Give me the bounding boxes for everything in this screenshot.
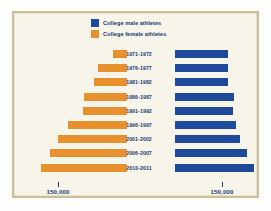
- category-label: 1971-1972: [115, 49, 163, 59]
- bar-male: [175, 64, 228, 72]
- legend-swatch-male-icon: [91, 19, 99, 27]
- chart-row: 2010-2011: [15, 164, 262, 172]
- chart-row: 1976-1977: [15, 64, 262, 72]
- chart-row: 1991-1992: [15, 107, 262, 115]
- chart-axis: 150,000 150,000: [15, 182, 262, 200]
- bar-male: [175, 135, 240, 143]
- category-label: 1976-1977: [115, 63, 163, 73]
- axis-tick-left: [58, 182, 59, 187]
- category-label: 2006-2007: [115, 148, 163, 158]
- bar-male: [175, 50, 228, 58]
- axis-tick-label-right: 150,000: [210, 188, 233, 196]
- chart-row: 2006-2007: [15, 149, 262, 157]
- chart-legend: College male athletes College female ath…: [91, 18, 241, 40]
- plot-area: 1971-19721976-19771981-19821986-19871991…: [15, 50, 262, 182]
- bar-male: [175, 107, 233, 115]
- category-label: 2001-2002: [115, 134, 163, 144]
- chart-row: 2001-2002: [15, 135, 262, 143]
- category-label: 1986-1987: [115, 92, 163, 102]
- bar-male: [175, 164, 254, 172]
- bar-male: [175, 121, 236, 129]
- category-label: 1991-1992: [115, 106, 163, 116]
- chart-row: 1981-1982: [15, 78, 262, 86]
- legend-item-female: College female athletes: [91, 29, 241, 39]
- chart-row: 1986-1987: [15, 93, 262, 101]
- chart-figure: College male athletes College female ath…: [0, 0, 271, 211]
- legend-label-female: College female athletes: [103, 30, 166, 38]
- axis-tick-right: [222, 182, 223, 187]
- legend-swatch-female-icon: [91, 30, 99, 38]
- bar-male: [175, 78, 228, 86]
- chart-row: 1996-1997: [15, 121, 262, 129]
- category-label: 1981-1982: [115, 77, 163, 87]
- axis-tick-label-left: 150,000: [46, 188, 69, 196]
- legend-label-male: College male athletes: [103, 19, 161, 27]
- bar-male: [175, 149, 247, 157]
- bar-male: [175, 93, 234, 101]
- category-label: 2010-2011: [115, 163, 163, 173]
- legend-item-male: College male athletes: [91, 18, 241, 28]
- category-label: 1996-1997: [115, 120, 163, 130]
- chart-frame-inner: College male athletes College female ath…: [14, 13, 257, 196]
- chart-frame: College male athletes College female ath…: [12, 11, 259, 198]
- chart-row: 1971-1972: [15, 50, 262, 58]
